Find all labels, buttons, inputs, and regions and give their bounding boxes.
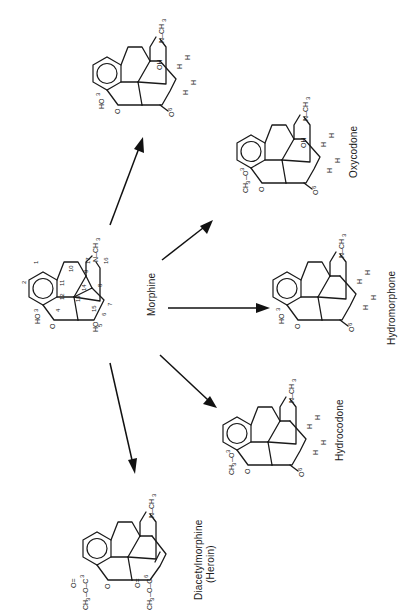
svg-text:O: O <box>258 186 265 192</box>
arrow-to-hydromorphone <box>168 303 270 313</box>
svg-text:16: 16 <box>103 257 109 264</box>
svg-text:3: 3 <box>341 233 347 237</box>
svg-text:6: 6 <box>101 312 107 316</box>
svg-text:3: 3 <box>239 167 245 171</box>
oxycodone-structure: N–CH3 CH3–O3 O O6 OH H H H H Oxycodone <box>237 96 359 195</box>
svg-text:–O–C: –O–C <box>146 579 153 597</box>
hydromorphone-label: Hydromorphone <box>386 270 397 345</box>
svg-text:3: 3 <box>305 96 311 100</box>
svg-text:3: 3 <box>95 92 101 96</box>
heroin-label-line1: Diacetylmorphine <box>193 519 204 600</box>
svg-text:OH: OH <box>156 60 163 71</box>
ether-oxygen-label: O <box>49 323 56 329</box>
svg-text:3: 3 <box>161 18 167 22</box>
svg-text:H: H <box>326 168 333 173</box>
heroin-label-line2: (Heroin) <box>205 545 216 583</box>
svg-text:H: H <box>312 450 319 455</box>
hydromorphone-structure: N–CH3 HO3 O O6 H H H H Hydromorphone <box>273 233 397 345</box>
svg-text:H: H <box>320 440 327 445</box>
svg-text:6: 6 <box>143 574 149 578</box>
svg-text:3: 3 <box>275 307 281 311</box>
svg-text:OH: OH <box>300 138 307 149</box>
svg-text:H: H <box>362 305 369 310</box>
svg-text:H: H <box>176 64 183 69</box>
svg-text:3: 3 <box>33 308 39 312</box>
svg-text:HO: HO <box>278 313 285 324</box>
svg-text:N–CH: N–CH <box>158 24 165 43</box>
svg-text:6: 6 <box>311 185 317 189</box>
svg-text:7: 7 <box>107 302 113 306</box>
svg-text:H: H <box>364 270 371 275</box>
svg-text:3: 3 <box>151 493 157 497</box>
svg-text:14: 14 <box>81 284 87 291</box>
svg-text:1: 1 <box>33 260 39 264</box>
svg-text:N–CH: N–CH <box>288 384 295 403</box>
svg-text:3: 3 <box>95 237 101 241</box>
arrow-to-heroin <box>110 363 137 474</box>
svg-text:10: 10 <box>68 265 74 272</box>
hydrocodone-label: Hydrocodone <box>334 399 345 461</box>
svg-text:6: 6 <box>167 107 173 111</box>
svg-text:O: O <box>244 468 251 474</box>
svg-text:H: H <box>184 55 191 60</box>
svg-text:O=: O= <box>70 578 77 588</box>
morphine-structure: N–CH 3 HO O HO 1 2 3 4 5 6 7 8 9 10 11 1… <box>21 237 157 332</box>
svg-text:–O–C: –O–C <box>82 579 89 597</box>
svg-text:4: 4 <box>55 308 61 312</box>
svg-text:H: H <box>320 142 327 147</box>
svg-text:H: H <box>306 424 313 429</box>
svg-text:H: H <box>182 90 189 95</box>
arrow-to-hydrocodone <box>160 355 217 408</box>
svg-text:13: 13 <box>75 295 81 302</box>
svg-text:O: O <box>114 108 121 114</box>
svg-text:3: 3 <box>79 574 85 578</box>
arrow-to-oxycodone <box>162 220 213 260</box>
svg-text:11: 11 <box>59 279 65 286</box>
svg-text:17: 17 <box>85 257 91 264</box>
svg-text:H: H <box>190 80 197 85</box>
svg-text:O: O <box>104 583 111 589</box>
svg-text:6: 6 <box>347 322 353 326</box>
morphine-label: Morphine <box>146 272 157 316</box>
svg-text:N–CH: N–CH <box>302 102 309 121</box>
svg-text:N–CH: N–CH <box>338 239 345 258</box>
arrow-to-oxymorphone <box>110 137 144 225</box>
opioid-derivatives-diagram: N–CH 3 HO O HO 1 2 3 4 5 6 7 8 9 10 11 1… <box>0 0 420 615</box>
svg-text:H: H <box>314 415 321 420</box>
hydrocodone-structure: N–CH3 CH3–O3 O O6 H H H H Hydrocodone <box>223 378 345 477</box>
oxycodone-label: Oxycodone <box>348 125 359 178</box>
n-methyl-label: N–CH <box>92 243 99 262</box>
svg-text:3: 3 <box>225 449 231 453</box>
svg-text:H: H <box>356 279 363 284</box>
svg-text:H: H <box>328 133 335 138</box>
oxymorphone-structure: N–CH3 HO3 O O6 OH H H H H Oxymorphone <box>93 0 220 117</box>
hydroxyl-3-label: HO <box>34 313 41 324</box>
svg-text:O=: O= <box>134 578 141 588</box>
svg-text:6: 6 <box>297 467 303 471</box>
svg-text:N–CH: N–CH <box>148 499 155 518</box>
svg-text:O: O <box>294 323 301 329</box>
svg-text:H: H <box>370 295 377 300</box>
svg-text:3: 3 <box>291 378 297 382</box>
svg-text:H: H <box>334 158 341 163</box>
svg-text:2: 2 <box>21 280 27 284</box>
svg-text:15: 15 <box>91 305 97 312</box>
svg-text:12: 12 <box>59 293 65 300</box>
heroin-structure: N–CH3 O CH3–O–C3 O= CH3–O–C6 O= Diacetyl… <box>70 493 216 610</box>
svg-text:HO: HO <box>98 98 105 109</box>
